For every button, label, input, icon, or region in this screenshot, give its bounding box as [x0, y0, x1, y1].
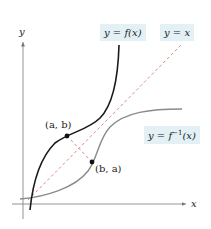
point-a-b-label: (a, b): [45, 120, 72, 130]
inverse-function-diagram: y x y = f(x) y = x y = f−1(x) (a, b) (b,…: [0, 0, 211, 229]
point-a-b: [65, 134, 70, 139]
point-b-a-label: (b, a): [95, 164, 122, 174]
inverse-label-prefix: y = f: [148, 130, 172, 141]
reflection-segment: [67, 136, 92, 162]
y-axis-label: y: [19, 27, 25, 37]
inverse-curve-label: y = f−1(x): [144, 126, 200, 144]
identity-line-label: y = x: [160, 24, 194, 41]
inverse-label-superscript: −1: [172, 129, 182, 137]
point-b-a: [90, 160, 95, 165]
function-curve-label: y = f(x): [100, 24, 146, 41]
inverse-label-suffix: (x): [182, 130, 195, 141]
function-curve: [30, 45, 119, 210]
x-axis-label: x: [191, 199, 197, 209]
